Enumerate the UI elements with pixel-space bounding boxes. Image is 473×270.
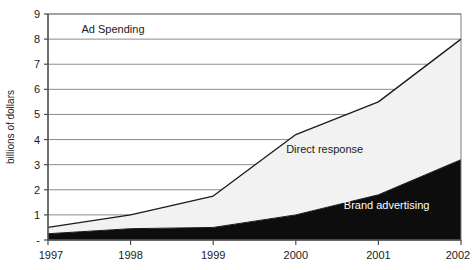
x-axis-tick-label: 1999 <box>201 249 225 261</box>
ad-spending-chart: -123456789199719981999200020012002Ad Spe… <box>0 0 473 270</box>
y-axis-tick-label: 5 <box>34 108 40 120</box>
y-axis-tick-label: 2 <box>34 184 40 196</box>
y-axis-tick-label: - <box>36 234 40 246</box>
chart-title: Ad Spending <box>82 23 145 35</box>
x-axis-tick-label: 2002 <box>446 249 470 261</box>
series-annotation-label: Brand advertising <box>344 199 430 211</box>
y-axis-tick-label: 9 <box>34 8 40 20</box>
y-axis-tick-label: 1 <box>34 209 40 221</box>
y-axis-tick-label: 8 <box>34 33 40 45</box>
x-axis-tick-label: 2001 <box>366 249 390 261</box>
y-axis-title: billions of dollars <box>5 90 16 164</box>
y-axis-tick-label: 7 <box>34 58 40 70</box>
y-axis-tick-label: 4 <box>34 134 40 146</box>
x-axis-tick-label: 1998 <box>118 249 142 261</box>
y-axis-tick-label: 3 <box>34 159 40 171</box>
series-annotation-label: Direct response <box>286 143 363 155</box>
y-axis-tick-label: 6 <box>34 83 40 95</box>
chart-canvas: -123456789199719981999200020012002Ad Spe… <box>0 0 473 270</box>
x-axis-tick-label: 1997 <box>39 249 63 261</box>
x-axis-tick-label: 2000 <box>284 249 308 261</box>
